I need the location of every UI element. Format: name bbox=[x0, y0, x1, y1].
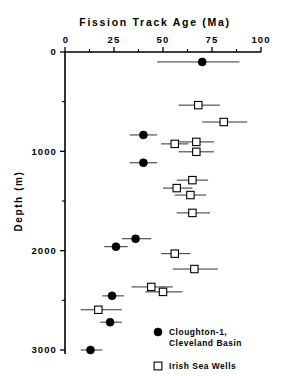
open-square-marker-icon bbox=[159, 288, 166, 295]
open-square-marker-icon bbox=[95, 306, 102, 313]
y-tick-label-0: 0 bbox=[51, 46, 57, 57]
legend-label-cloughton-line1: Cloughton-1, bbox=[169, 327, 227, 337]
open-square-marker-icon bbox=[148, 283, 155, 290]
legend-filled-circle-marker-icon bbox=[154, 328, 162, 336]
filled-circle-marker-icon bbox=[112, 243, 120, 251]
open-square-marker-icon bbox=[173, 184, 180, 191]
chart-canvas: 02550751000100020003000Fission Track Age… bbox=[0, 0, 286, 376]
open-square-marker-icon bbox=[189, 176, 196, 183]
y-tick-label-1000: 1000 bbox=[31, 146, 57, 157]
fission-track-age-depth-chart: 02550751000100020003000Fission Track Age… bbox=[0, 0, 286, 376]
x-tick-label-0: 0 bbox=[63, 34, 69, 45]
chart-title: Fission Track Age (Ma) bbox=[79, 16, 230, 28]
y-tick-label-2000: 2000 bbox=[31, 245, 57, 256]
filled-circle-marker-icon bbox=[139, 131, 147, 139]
y-axis-label: Depth (m) bbox=[13, 170, 24, 231]
filled-circle-marker-icon bbox=[86, 346, 94, 354]
legend-label-irish-sea-wells: Irish Sea Wells bbox=[169, 361, 236, 371]
open-square-marker-icon bbox=[189, 209, 196, 216]
open-square-marker-icon bbox=[171, 140, 178, 147]
legend-open-square-marker-icon bbox=[154, 362, 162, 370]
filled-circle-marker-icon bbox=[198, 58, 206, 66]
filled-circle-marker-icon bbox=[139, 159, 147, 167]
open-square-marker-icon bbox=[193, 138, 200, 145]
open-square-marker-icon bbox=[191, 265, 198, 272]
x-tick-label-50: 50 bbox=[157, 34, 170, 45]
open-square-marker-icon bbox=[220, 118, 227, 125]
open-square-marker-icon bbox=[187, 191, 194, 198]
x-tick-label-25: 25 bbox=[108, 34, 121, 45]
y-tick-label-3000: 3000 bbox=[31, 344, 57, 355]
filled-circle-marker-icon bbox=[132, 235, 140, 243]
filled-circle-marker-icon bbox=[106, 318, 114, 326]
legend-label-cloughton-line2: Cleveland Basin bbox=[169, 338, 242, 348]
x-tick-label-100: 100 bbox=[251, 34, 270, 45]
open-square-marker-icon bbox=[193, 148, 200, 155]
open-square-marker-icon bbox=[195, 101, 202, 108]
open-square-marker-icon bbox=[171, 250, 178, 257]
filled-circle-marker-icon bbox=[108, 292, 116, 300]
x-tick-label-75: 75 bbox=[206, 34, 219, 45]
